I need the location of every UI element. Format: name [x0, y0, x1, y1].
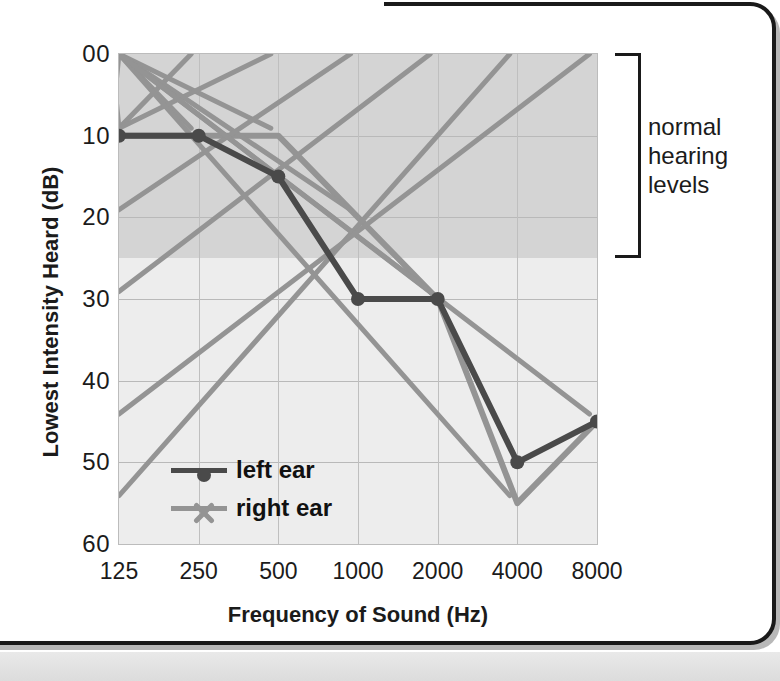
data-point-marker — [197, 468, 211, 482]
x-axis-tick-label: 8000 — [571, 558, 622, 585]
y-axis-tick-label: 20 — [58, 203, 110, 231]
y-axis-tick-label: 10 — [58, 122, 110, 150]
y-axis-tick-label: 30 — [58, 285, 110, 313]
data-point-marker — [119, 54, 590, 414]
x-axis-tick-label: 1000 — [332, 558, 383, 585]
normal-hearing-annotation: normal hearing levels — [648, 112, 774, 199]
x-axis-tick-label: 125 — [100, 558, 138, 585]
legend-label: right ear — [236, 494, 332, 522]
legend-x-icon — [171, 498, 227, 518]
series-line-right-ear — [119, 136, 597, 504]
x-axis-tick-label: 250 — [179, 558, 217, 585]
legend-item-left-ear: left ear — [171, 451, 332, 489]
annotation-line-3: levels — [648, 170, 774, 199]
x-axis-ticks: 1252505001000200040008000 — [118, 558, 598, 592]
y-axis-tick-label: 00 — [58, 40, 110, 68]
data-point-marker — [431, 292, 445, 306]
data-point-marker — [119, 54, 271, 128]
y-axis-tick-label: 50 — [58, 448, 110, 476]
chart-legend: left earright ear — [171, 451, 332, 527]
annotation-line-2: hearing — [648, 141, 774, 170]
annotation-line-1: normal — [648, 112, 774, 141]
y-axis-title: Lowest Intensity Heard (dB) — [38, 132, 64, 492]
y-axis-tick-label: 60 — [58, 530, 110, 558]
data-point-marker — [510, 455, 524, 469]
data-point-marker — [197, 506, 212, 521]
x-axis-tick-label: 500 — [259, 558, 297, 585]
x-axis-tick-label: 4000 — [492, 558, 543, 585]
audiogram-chart: 00102030405060 1252505001000200040008000… — [0, 0, 780, 681]
y-axis-tick-label: 40 — [58, 367, 110, 395]
legend-item-right-ear: right ear — [171, 489, 332, 527]
legend-circle-icon — [171, 460, 227, 480]
data-point-marker — [271, 170, 285, 184]
data-point-marker — [119, 54, 510, 496]
data-point-marker — [351, 292, 365, 306]
x-axis-title: Frequency of Sound (Hz) — [118, 602, 598, 628]
x-axis-tick-label: 2000 — [412, 558, 463, 585]
data-point-marker — [119, 129, 126, 143]
data-point-marker — [192, 129, 206, 143]
legend-label: left ear — [236, 456, 315, 484]
normal-hearing-bracket-icon — [615, 53, 641, 258]
